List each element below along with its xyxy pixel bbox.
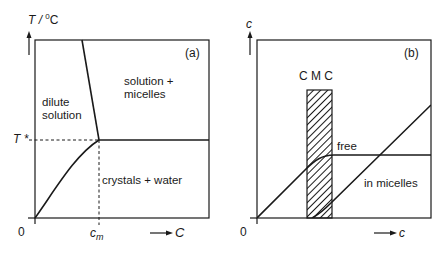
panel-b-x-axis-label: c xyxy=(399,226,405,240)
arrow-right-icon xyxy=(150,231,173,236)
region-crystals-water: crystals + water xyxy=(102,174,182,186)
arrow-right-icon xyxy=(374,231,397,236)
in-micelles-label: in micelles xyxy=(364,177,418,189)
panel-a-cmc-boundary xyxy=(82,40,99,140)
t-star-label: T * xyxy=(13,132,29,146)
panel-a-frame xyxy=(35,40,209,218)
panel-a-y-axis-label: T / 0C xyxy=(28,12,59,27)
panel-a-tag: (a) xyxy=(185,46,200,60)
panel-a-solubility-curve xyxy=(35,140,99,218)
panel-b: c (b) C M C free in micelles 0 c xyxy=(240,17,431,240)
free-label: free xyxy=(337,140,357,152)
cm-label: cm xyxy=(90,226,104,242)
cmc-label: C M C xyxy=(299,69,333,83)
cmc-hatched-band xyxy=(307,90,332,218)
arrow-up-icon xyxy=(248,31,253,55)
panel-b-origin-label: 0 xyxy=(240,225,247,239)
region-dilute-solution: dilute solution xyxy=(42,96,82,121)
panel-b-tag: (b) xyxy=(404,46,419,60)
panel-a-origin-label: 0 xyxy=(18,225,25,239)
panel-a-x-axis-label: C xyxy=(175,225,185,240)
arrow-up-icon xyxy=(27,31,32,55)
panel-b-y-axis-label: c xyxy=(246,17,252,31)
phase-diagram-figure: T / 0C (a) dilute solution solution + mi… xyxy=(0,0,445,253)
panel-a: T / 0C (a) dilute solution solution + mi… xyxy=(13,12,209,242)
region-solution-micelles: solution + micelles xyxy=(124,75,177,100)
